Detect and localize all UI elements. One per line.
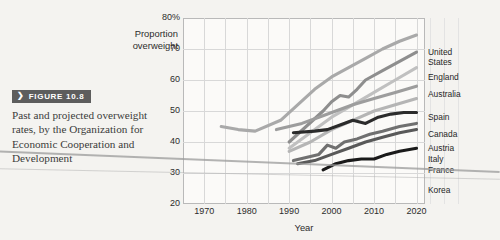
- x-axis-ticks: 197019801990200020102020: [183, 206, 425, 220]
- legend-item-england: England: [428, 73, 459, 83]
- legend-item-united-states: United States: [428, 48, 452, 67]
- legend-item-korea: Korea: [428, 186, 450, 196]
- y-axis-tick-label: 80%: [150, 12, 180, 22]
- chart-plot-area: [183, 18, 425, 204]
- legend-background-rule: [444, 18, 445, 204]
- series-lines: [183, 18, 425, 204]
- legend-item-italy: Italy: [428, 155, 443, 165]
- x-axis-tick-label: 1990: [269, 206, 309, 216]
- y-axis-tick-label: 30: [150, 167, 180, 177]
- figure-caption-block: ❯ FIGURE 10.8 Past and projected overwei…: [12, 84, 154, 166]
- x-axis-tick-label: 1970: [184, 206, 224, 216]
- legend-background-rule: [430, 18, 431, 204]
- legend-item-australia: Australia: [428, 90, 461, 100]
- chart-legend: United StatesEnglandAustraliaSpainCanada…: [428, 18, 483, 204]
- legend-item-canada: Canada: [428, 130, 457, 140]
- y-axis-tick-label: 70: [150, 43, 180, 53]
- y-axis-ticks: 20304050607080%: [148, 18, 180, 204]
- figure-number-label: FIGURE 10.8: [29, 92, 85, 101]
- series-line: [289, 68, 416, 149]
- y-axis-tick-label: 20: [150, 198, 180, 208]
- y-axis-tick-label: 50: [150, 105, 180, 115]
- legend-item-france: France: [428, 166, 454, 176]
- x-axis-tick-label: 1980: [227, 206, 267, 216]
- chevron-right-icon: ❯: [17, 92, 25, 100]
- legend-item-spain: Spain: [428, 113, 449, 123]
- x-axis-title: Year: [183, 222, 425, 233]
- x-axis-tick-label: 2000: [312, 206, 352, 216]
- figure-caption-text: Past and projected overweight rates, by …: [12, 108, 154, 166]
- y-axis-tick-label: 60: [150, 74, 180, 84]
- legend-background-rule: [458, 18, 459, 204]
- x-axis-tick-label: 2010: [354, 206, 394, 216]
- figure-number-badge: ❯ FIGURE 10.8: [12, 90, 91, 103]
- y-axis-tick-label: 40: [150, 136, 180, 146]
- legend-item-austria: Austria: [428, 144, 454, 154]
- x-axis-tick-label: 2020: [397, 206, 437, 216]
